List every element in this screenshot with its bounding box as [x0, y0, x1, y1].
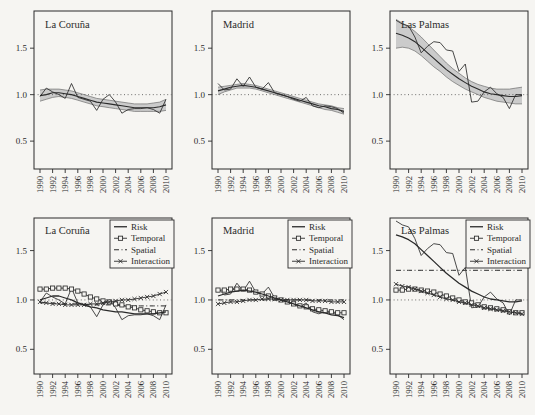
x-tick-label: 2002	[111, 176, 121, 193]
y-tick-label: 0.5	[16, 136, 28, 146]
square-marker	[57, 286, 61, 290]
y-tick-label: 1.5	[194, 246, 206, 256]
chart-svg: 0.51.01.51990199219941996199820002002200…	[356, 208, 534, 415]
square-marker	[76, 289, 80, 293]
square-marker	[95, 297, 99, 301]
square-marker	[222, 288, 226, 292]
legend-label: Interaction	[487, 256, 526, 266]
square-marker	[44, 287, 48, 291]
y-tick-label: 0.5	[372, 136, 384, 146]
y-tick-label: 1.5	[372, 43, 384, 53]
square-marker	[38, 287, 42, 291]
x-tick-label: 2004	[301, 175, 311, 193]
chart-svg: 0.51.01.51990199219941996199820002002200…	[356, 0, 534, 207]
confidence-band	[396, 19, 522, 104]
square-marker	[216, 288, 220, 292]
temporal-line	[38, 286, 168, 315]
square-marker	[63, 286, 67, 290]
legend-label: Interaction	[309, 256, 348, 266]
trend-figure: 0.51.01.51990199219941996199820002002200…	[0, 0, 535, 415]
square-marker	[329, 310, 333, 314]
x-tick-label: 1994	[416, 175, 426, 193]
x-tick-label: 2010	[517, 176, 527, 193]
x-tick-label: 2000	[276, 176, 286, 193]
risk-line	[218, 290, 344, 318]
x-tick-label: 2006	[136, 176, 146, 193]
legend-label: Risk	[309, 222, 326, 232]
square-marker	[132, 306, 136, 310]
panel-title: La Coruña	[45, 225, 90, 236]
x-tick-label: 2010	[161, 381, 171, 398]
x-tick-label: 2000	[98, 381, 108, 398]
x-marker	[394, 282, 398, 286]
plot-frame	[212, 11, 350, 169]
y-tick-label: 0.5	[194, 344, 206, 354]
x-tick-label: 1992	[404, 381, 414, 398]
x-tick-label: 1992	[48, 176, 58, 193]
panel-bottom-madrid: 0.51.01.51990199219941996199820002002200…	[178, 208, 356, 415]
x-tick-label: 1996	[251, 381, 261, 398]
x-tick-label: 1996	[429, 381, 439, 398]
y-tick-label: 0.5	[194, 136, 206, 146]
chart-svg: 0.51.01.51990199219941996199820002002200…	[178, 0, 356, 207]
square-marker	[336, 311, 340, 315]
x-tick-label: 1990	[213, 381, 223, 398]
y-tick-label: 1.0	[16, 90, 28, 100]
x-tick-label: 2004	[479, 380, 489, 398]
x-tick-label: 2010	[339, 176, 349, 193]
legend-label: Temporal	[131, 233, 166, 243]
x-tick-label: 1998	[85, 381, 95, 398]
legend: RiskTemporalSpatialInteraction	[466, 220, 530, 268]
chart-svg: 0.51.01.51990199219941996199820002002200…	[178, 208, 356, 415]
square-marker	[82, 292, 86, 296]
panel-bottom-la-coruna: 0.51.01.51990199219941996199820002002200…	[0, 208, 178, 415]
y-tick-label: 1.0	[194, 295, 206, 305]
x-tick-label: 1990	[391, 176, 401, 193]
y-tick-label: 1.5	[194, 43, 206, 53]
y-tick-label: 1.0	[194, 90, 206, 100]
y-tick-label: 1.0	[372, 295, 384, 305]
x-tick-label: 2004	[479, 175, 489, 193]
x-tick-label: 2008	[504, 176, 514, 193]
x-tick-label: 2006	[492, 381, 502, 398]
x-tick-label: 1992	[226, 176, 236, 193]
x-tick-label: 1996	[73, 176, 83, 193]
y-tick-label: 1.5	[16, 43, 28, 53]
x-tick-label: 1990	[35, 381, 45, 398]
x-tick-label: 2002	[289, 381, 299, 398]
square-marker	[400, 288, 404, 292]
x-tick-label: 2010	[517, 381, 527, 398]
square-marker	[88, 295, 92, 299]
legend-label: Risk	[131, 222, 148, 232]
legend-label: Spatial	[309, 245, 334, 255]
x-tick-label: 2004	[301, 380, 311, 398]
square-marker	[51, 286, 55, 290]
x-tick-label: 1994	[60, 175, 70, 193]
legend-label: Spatial	[487, 245, 512, 255]
x-tick-label: 2006	[314, 381, 324, 398]
square-marker	[474, 236, 478, 240]
square-marker	[145, 309, 149, 313]
square-marker	[229, 287, 233, 291]
legend-label: Temporal	[309, 233, 344, 243]
chart-svg: 0.51.01.51990199219941996199820002002200…	[0, 208, 178, 415]
x-tick-label: 2000	[454, 381, 464, 398]
x-tick-label: 2002	[467, 381, 477, 398]
x-tick-label: 1994	[416, 380, 426, 398]
x-tick-label: 2008	[326, 381, 336, 398]
square-marker	[164, 311, 168, 315]
x-tick-label: 1994	[238, 380, 248, 398]
square-marker	[139, 308, 143, 312]
panel-title: Las Palmas	[401, 19, 449, 30]
x-tick-label: 2010	[161, 176, 171, 193]
x-tick-label: 1998	[85, 176, 95, 193]
x-tick-label: 1998	[441, 381, 451, 398]
panel-title: Las Palmas	[401, 225, 449, 236]
x-tick-label: 2008	[326, 176, 336, 193]
panel-top-las-palmas: 0.51.01.51990199219941996199820002002200…	[356, 0, 534, 207]
x-tick-label: 2004	[123, 380, 133, 398]
legend-label: Interaction	[131, 256, 170, 266]
x-tick-label: 1992	[48, 381, 58, 398]
x-tick-label: 1992	[226, 381, 236, 398]
x-tick-label: 2008	[148, 176, 158, 193]
